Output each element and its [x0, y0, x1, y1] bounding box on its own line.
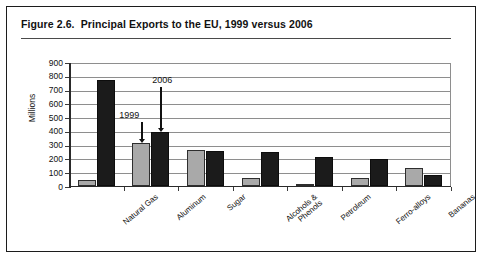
y-tick-label: 0: [37, 183, 63, 192]
bar-1999[interactable]: [296, 184, 314, 186]
plot-area: 19992006: [69, 63, 451, 187]
bar-group: [78, 62, 115, 186]
annotation-label: 2006: [152, 75, 172, 85]
bar-group: [242, 62, 279, 186]
y-tick-label: 400: [37, 127, 63, 136]
annotation-arrow-head: [158, 128, 164, 132]
x-tick-mark: [233, 187, 234, 191]
y-axis-title: Millions: [27, 73, 37, 143]
x-tick-mark: [124, 187, 125, 191]
chart-plot: Millions 0100200300400500600700800900 19…: [7, 7, 477, 253]
y-tick-label: 200: [37, 155, 63, 164]
bar-2006[interactable]: [315, 157, 333, 185]
y-tick-label: 800: [37, 72, 63, 81]
y-tick-label: 700: [37, 86, 63, 95]
bar-1999[interactable]: [351, 178, 369, 186]
figure-frame: Figure 2.6. Principal Exports to the EU,…: [6, 6, 476, 252]
x-axis-label: Alcohols & Phenols: [285, 193, 325, 230]
bar-group: [296, 62, 333, 186]
annotation-arrow-line: [141, 122, 142, 139]
y-tick-label: 500: [37, 114, 63, 123]
x-axis-label: Petroleum: [339, 193, 372, 223]
bar-1999[interactable]: [187, 150, 205, 186]
bar-group: [405, 62, 442, 186]
x-axis-label: Ferro-alloys: [395, 193, 433, 227]
bar-2006[interactable]: [97, 80, 115, 185]
x-axis-label: Aluminum: [175, 193, 208, 222]
x-tick-mark: [396, 187, 397, 191]
plot-right-border: [450, 63, 451, 187]
bar-1999[interactable]: [78, 180, 96, 186]
annotation-label: 1999: [119, 110, 139, 120]
x-tick-mark: [178, 187, 179, 191]
bar-group: [351, 62, 388, 186]
y-axis-line: [69, 63, 71, 188]
y-tick-label: 900: [37, 59, 63, 68]
x-axis-line: [69, 186, 451, 188]
bar-1999[interactable]: [132, 143, 150, 186]
bar-2006[interactable]: [151, 132, 169, 186]
bar-2006[interactable]: [206, 151, 224, 185]
bar-1999[interactable]: [242, 178, 260, 186]
x-tick-mark: [451, 187, 452, 191]
x-axis-label: Sugar: [226, 193, 248, 213]
x-tick-mark: [287, 187, 288, 191]
x-axis-label: Natural Gas: [122, 193, 160, 227]
bar-2006[interactable]: [261, 152, 279, 185]
annotation-arrow-line: [160, 87, 161, 128]
y-tick-label: 100: [37, 169, 63, 178]
bar-2006[interactable]: [424, 175, 442, 185]
y-tick-label: 300: [37, 141, 63, 150]
y-tick-label: 600: [37, 100, 63, 109]
annotation-arrow-head: [139, 139, 145, 143]
x-axis-label: Bananas: [447, 193, 477, 220]
bar-group: [187, 62, 224, 186]
bar-2006[interactable]: [370, 159, 388, 186]
x-tick-mark: [342, 187, 343, 191]
bar-1999[interactable]: [405, 168, 423, 186]
